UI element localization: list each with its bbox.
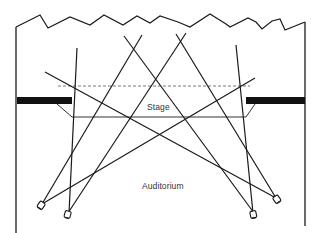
stage-label: Stage (147, 102, 170, 112)
right-proscenium-bar (246, 97, 305, 104)
lighting-diagram (0, 0, 320, 233)
beam-right1-vertical (236, 45, 253, 213)
beam-right2-to-left (45, 72, 276, 198)
spotlight-right-2-icon (272, 195, 281, 204)
spotlight-right-1-icon (250, 210, 257, 218)
beam-left1-to-upcenter (42, 35, 142, 204)
spotlight-left-2-icon (64, 210, 72, 218)
back-wall-jagged-edge (16, 14, 305, 30)
beam-left2-vertical (69, 48, 77, 213)
auditorium-label: Auditorium (142, 181, 184, 191)
left-proscenium-bar (17, 97, 72, 104)
